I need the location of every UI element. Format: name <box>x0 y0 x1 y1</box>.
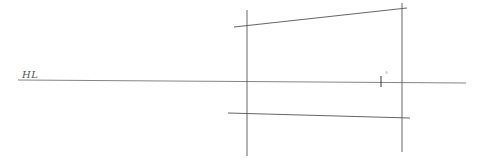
perspective-sketch <box>0 0 484 160</box>
top-edge-line <box>234 8 407 27</box>
bottom-edge-line <box>228 113 410 118</box>
horizon-label: HL <box>22 69 38 80</box>
vanishing-mark-label: ° <box>385 70 388 77</box>
horizon-line <box>18 80 466 83</box>
